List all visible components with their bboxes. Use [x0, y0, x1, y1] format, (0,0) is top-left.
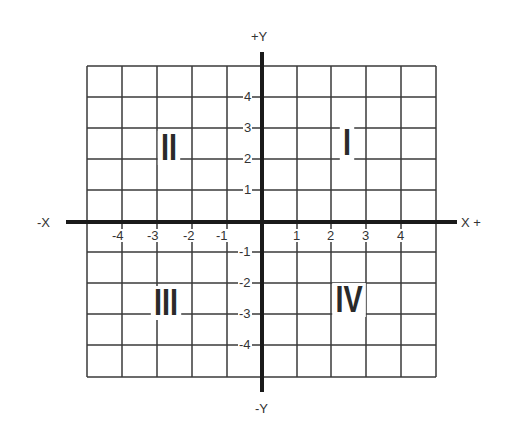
y-tick-label: -2: [238, 276, 252, 289]
x-tick-label: -1: [215, 229, 229, 242]
quadrant-1-label: I: [340, 126, 354, 160]
quadrant-4-label: IV: [332, 283, 366, 317]
quadrant-2-label: II: [158, 131, 180, 165]
x-pos-label: X +: [460, 216, 482, 229]
y-tick-label: -3: [238, 307, 252, 320]
x-tick-label: -4: [111, 229, 125, 242]
x-tick-label: 3: [361, 229, 370, 242]
x-tick-label: -2: [182, 229, 196, 242]
x-tick-label: 2: [326, 229, 335, 242]
y-neg-label: -Y: [254, 402, 269, 415]
y-tick-label: 3: [243, 121, 252, 134]
y-tick-label: 4: [243, 90, 252, 103]
x-tick-label: 4: [396, 229, 405, 242]
x-tick-label: 1: [292, 229, 301, 242]
y-pos-label: +Y: [250, 30, 268, 43]
y-tick-label: 2: [243, 152, 252, 165]
coordinate-grid: [0, 0, 513, 430]
x-tick-label: -3: [146, 229, 160, 242]
x-neg-label: -X: [36, 216, 51, 229]
y-tick-label: 1: [243, 183, 252, 196]
quadrant-3-label: III: [151, 286, 181, 320]
y-tick-label: -4: [238, 338, 252, 351]
y-tick-label: -1: [238, 245, 252, 258]
